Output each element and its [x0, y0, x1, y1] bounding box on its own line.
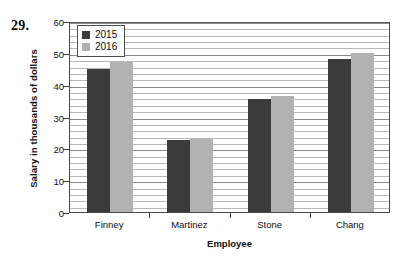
x-tick-mark	[310, 213, 311, 218]
gridline-major	[70, 23, 389, 24]
bar	[167, 140, 190, 212]
y-tick-mark	[63, 181, 69, 182]
y-tick-label: 30	[34, 112, 64, 123]
x-tick-mark	[149, 213, 150, 218]
bar	[248, 99, 271, 212]
y-tick-mark	[63, 86, 69, 87]
y-tick-label: 20	[34, 144, 64, 155]
x-tick-label: Chang	[336, 219, 364, 230]
chart-figure: 29. Salary in thousands of dollars 01020…	[0, 0, 419, 264]
legend: 2015 2016	[77, 25, 125, 57]
legend-label-2016: 2016	[95, 41, 117, 53]
legend-swatch-2015	[82, 31, 90, 39]
legend-swatch-2016	[82, 43, 90, 51]
y-tick-label: 10	[34, 176, 64, 187]
y-tick-label: 50	[34, 48, 64, 59]
bar	[190, 139, 213, 212]
legend-label-2015: 2015	[95, 29, 117, 41]
y-tick-label: 40	[34, 80, 64, 91]
bar	[271, 96, 294, 212]
y-tick-mark	[63, 22, 69, 23]
bar	[351, 53, 374, 212]
y-tick-mark	[63, 149, 69, 150]
question-number: 29.	[11, 18, 29, 34]
y-tick-mark	[63, 213, 69, 214]
y-axis-tick-labels: 0102030405060	[30, 22, 64, 213]
x-tick-label: Finney	[95, 219, 124, 230]
bar	[110, 62, 133, 212]
y-tick-mark	[63, 54, 69, 55]
x-tick-label: Martinez	[171, 219, 207, 230]
x-axis-title: Employee	[69, 238, 390, 249]
x-tick-mark	[230, 213, 231, 218]
x-tick-label: Stone	[257, 219, 282, 230]
legend-item: 2016	[82, 41, 117, 53]
legend-item: 2015	[82, 29, 117, 41]
y-tick-label: 0	[34, 208, 64, 219]
bar	[87, 69, 110, 212]
y-tick-label: 60	[34, 17, 64, 28]
bar	[328, 59, 351, 212]
y-tick-mark	[63, 118, 69, 119]
